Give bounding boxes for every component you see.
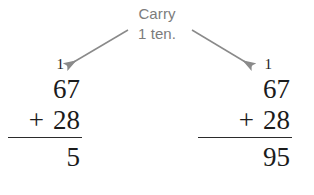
caption-line-1: Carry (0, 4, 314, 24)
addend-bottom: 28 (53, 104, 80, 136)
caption-line-2: 1 ten. (0, 24, 314, 44)
plus-operator: + (29, 104, 44, 136)
carry-caption: Carry 1 ten. (0, 4, 314, 44)
addend-top: 67 (198, 74, 292, 104)
carry-digit: 1 (198, 54, 292, 74)
addend-bottom: 28 (263, 104, 290, 136)
addition-problem-left: 1 67 + 28 5 (8, 54, 82, 172)
sum-total: 95 (198, 138, 292, 172)
addend-bottom-row: + 28 (8, 104, 82, 136)
sum-total: 5 (8, 138, 82, 172)
carry-digit: 1 (8, 54, 82, 74)
addend-top: 67 (8, 74, 82, 104)
addend-bottom-row: + 28 (198, 104, 292, 136)
plus-operator: + (239, 104, 254, 136)
worksheet-canvas: Carry 1 ten. 1 67 + 28 5 1 67 + 28 (0, 0, 314, 195)
addition-problem-right: 1 67 + 28 95 (198, 54, 292, 172)
